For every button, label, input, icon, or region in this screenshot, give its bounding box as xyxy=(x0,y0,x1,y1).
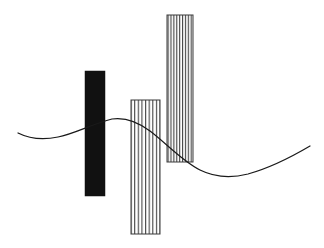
artboard xyxy=(0,0,324,248)
composition-svg xyxy=(0,0,324,248)
canvas-background xyxy=(0,0,324,248)
hatched-bar-middle xyxy=(131,100,160,234)
hatched-bar-tall xyxy=(167,15,193,162)
solid-black-bar xyxy=(85,71,105,196)
hatched-bar-tall-fill xyxy=(167,15,193,162)
hatched-bar-middle-fill xyxy=(131,100,160,234)
